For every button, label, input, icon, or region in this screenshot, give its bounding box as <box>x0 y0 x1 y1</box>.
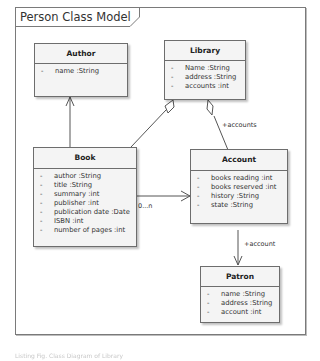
attribute: -accounts :int <box>165 82 245 91</box>
accounts-role-label: +accounts <box>222 121 257 129</box>
account-role-label: +account <box>244 240 275 248</box>
attribute: -number of pages :int <box>34 226 136 235</box>
attribute-list: -books reading :int -books reserved :int… <box>191 171 287 212</box>
attribute: -summary :int <box>34 190 136 199</box>
account-library-diamond <box>207 100 213 115</box>
attribute-list: -name :String -address :String -account … <box>201 287 279 319</box>
attribute: -state :String <box>191 201 287 210</box>
attribute: -publication date :Date <box>34 208 136 217</box>
class-book[interactable]: Book -author :String -title :String -sum… <box>33 147 137 247</box>
attribute: -address :String <box>201 299 279 308</box>
attribute: -title :String <box>34 181 136 190</box>
attribute: -Name :String <box>165 64 245 73</box>
class-name: Library <box>165 41 245 61</box>
attribute: -name :String <box>201 290 279 299</box>
attribute: -ISBN :int <box>34 217 136 226</box>
attribute: -account :int <box>201 308 279 317</box>
class-name: Book <box>34 148 136 169</box>
attribute: -name :String <box>35 67 127 76</box>
book-library-line <box>131 110 166 147</box>
class-account[interactable]: Account -books reading :int -books reser… <box>190 149 288 224</box>
attribute-list: -Name :String -address :String -accounts… <box>165 61 245 93</box>
attribute: -books reading :int <box>191 174 287 183</box>
class-name: Account <box>191 150 287 171</box>
book-library-diamond <box>165 100 174 113</box>
attribute: -history :String <box>191 192 287 201</box>
multiplicity-label: 0...n <box>138 202 152 210</box>
class-author[interactable]: Author -name :String <box>34 43 128 97</box>
attribute: -author :String <box>34 172 136 181</box>
class-name: Author <box>35 44 127 64</box>
class-library[interactable]: Library -Name :String -address :String -… <box>164 40 246 100</box>
attribute: -publisher :int <box>34 199 136 208</box>
figure-caption: Listing Fig. Class Diagram of Library <box>15 352 123 359</box>
attribute-list: -author :String -title :String -summary … <box>34 169 136 237</box>
class-name: Patron <box>201 267 279 287</box>
attribute-list: -name :String <box>35 64 127 78</box>
class-patron[interactable]: Patron -name :String -address :String -a… <box>200 266 280 323</box>
attribute: -address :String <box>165 73 245 82</box>
attribute: -books reserved :int <box>191 183 287 192</box>
